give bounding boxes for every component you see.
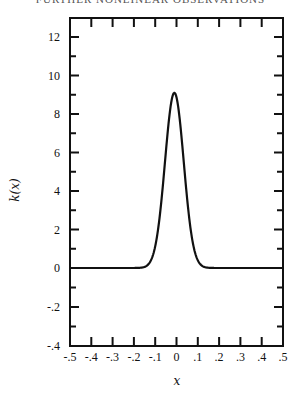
series-line-k — [70, 93, 283, 268]
x-tick-label: -.5 — [64, 350, 77, 364]
y-axis: 121086420-.2-.4 — [47, 30, 283, 353]
x-tick-label: -.2 — [127, 350, 140, 364]
x-axis-label: x — [174, 374, 181, 388]
y-tick-label: 4 — [54, 184, 60, 198]
y-tick-label: 8 — [54, 107, 60, 121]
y-tick-label: -.2 — [47, 300, 60, 314]
line-chart: 121086420-.2-.4 -.5-.4-.3-.2-.10.1.2.3.4… — [0, 0, 301, 399]
plot-frame — [70, 18, 283, 346]
x-tick-label: -.3 — [106, 350, 119, 364]
x-tick-label: 0 — [174, 350, 180, 364]
y-tick-label: 2 — [54, 223, 60, 237]
x-tick-label: -.1 — [149, 350, 162, 364]
y-tick-label: 6 — [54, 146, 60, 160]
x-tick-label: .1 — [193, 350, 202, 364]
x-axis: -.5-.4-.3-.2-.10.1.2.3.4.5 — [64, 18, 288, 364]
x-tick-label: -.4 — [85, 350, 98, 364]
x-tick-label: .4 — [257, 350, 266, 364]
x-tick-label: .2 — [215, 350, 224, 364]
y-axis-label: k(x) — [8, 178, 22, 202]
y-tick-label: 12 — [48, 30, 60, 44]
y-tick-label: 0 — [54, 261, 60, 275]
y-tick-label: 10 — [48, 69, 60, 83]
x-tick-label: .3 — [236, 350, 245, 364]
x-tick-label: .5 — [279, 350, 288, 364]
y-tick-label: -.4 — [47, 339, 60, 353]
